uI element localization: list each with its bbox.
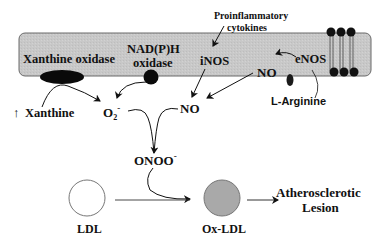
xanthine-to-superoxide-arrow [42,85,100,107]
superoxide-label: O2- [103,103,120,122]
ox-ldl-particle-icon [204,180,240,216]
nadph-oxidase-label-line1: NAD(P)H [127,42,180,56]
xanthine-oxidase-enzyme-icon [40,70,84,84]
xanthine-increase-arrow-icon: ↑ [13,105,20,120]
no-merge-arrow [154,108,178,153]
membrane-no-label: NO [257,65,277,80]
l-arginine-label: L-Arginine [271,95,326,107]
enos-anchor-icon [287,74,294,86]
xanthine-label: Xanthine [25,106,75,120]
atherosclerotic-label: Atherosclerotic [276,185,361,200]
ldl-particle-icon [69,180,105,216]
nadph-oxidase-label-line2: oxidase [133,56,173,70]
ox-ldl-label: Ox-LDL [202,222,246,236]
membrane-no-to-no-arrow [207,73,253,98]
superoxide-merge-line [128,110,154,153]
peroxynitrite-oxidation-arrow [148,168,190,199]
cytokines-label-line2: cytokines [227,22,267,33]
ldl-label: LDL [77,222,102,236]
nadph-to-superoxide-arrow [117,82,146,98]
peroxynitrite-label: ONOO- [134,151,177,168]
nitric-oxide-label: NO [180,101,200,116]
inos-label: iNOS [200,54,229,68]
xanthine-oxidase-label: Xanthine oxidase [23,52,115,66]
enos-label: eNOS [295,52,326,66]
lesion-label: Lesion [302,200,340,215]
atherosclerosis-pathway-diagram: Xanthine oxidase NAD(P)H oxidase Proinfl… [0,0,380,245]
cytokines-label-line1: Proinflammatory [214,10,288,21]
